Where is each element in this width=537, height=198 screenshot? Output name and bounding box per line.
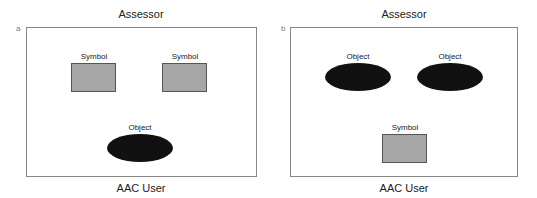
symbol-card: [382, 134, 427, 163]
panel-label: a: [16, 24, 20, 33]
aac-user-label: AAC User: [81, 182, 201, 194]
assessor-label: Assessor: [81, 8, 201, 20]
object-label: Object: [420, 52, 480, 61]
symbol-card: [162, 63, 207, 92]
symbol-label: Symbol: [64, 52, 124, 61]
object-label: Object: [328, 52, 388, 61]
object-ellipse: [325, 63, 391, 91]
symbol-label: Symbol: [375, 123, 435, 132]
panel-label: b: [281, 24, 285, 33]
symbol-label: Symbol: [155, 52, 215, 61]
assessor-label: Assessor: [344, 8, 464, 20]
object-ellipse: [417, 63, 483, 91]
symbol-card: [71, 63, 116, 92]
aac-user-label: AAC User: [344, 182, 464, 194]
object-ellipse: [107, 134, 173, 162]
object-label: Object: [110, 123, 170, 132]
